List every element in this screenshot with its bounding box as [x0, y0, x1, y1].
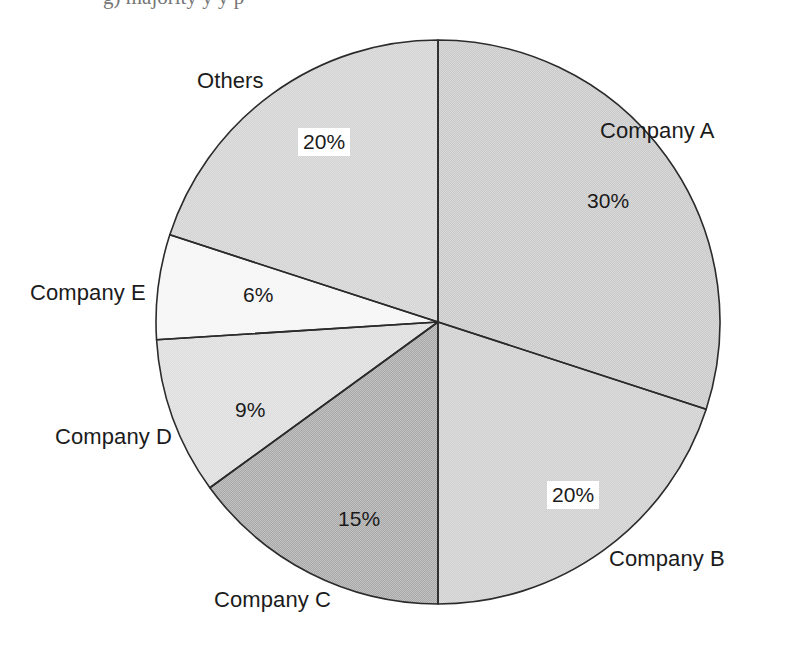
pie-category-label-others: Others	[197, 70, 264, 92]
pie-category-label-company-d: Company D	[55, 426, 172, 448]
pie-category-label-company-c: Company C	[214, 589, 331, 611]
pie-category-label-company-e: Company E	[30, 282, 146, 304]
pie-category-label-company-a: Company A	[600, 120, 715, 142]
pie-value-label-others: 20%	[298, 128, 350, 156]
pie-value-label-company-b: 20%	[547, 481, 599, 509]
pie-value-label-company-c: 15%	[338, 508, 380, 529]
pie-category-label-company-b: Company B	[609, 548, 725, 570]
pie-value-label-company-a: 30%	[587, 190, 629, 211]
pie-chart-figure: g) majority y y p Company A30%Company B2…	[0, 0, 810, 646]
pie-value-label-company-d: 9%	[235, 399, 266, 420]
pie-value-label-company-e: 6%	[243, 284, 274, 305]
